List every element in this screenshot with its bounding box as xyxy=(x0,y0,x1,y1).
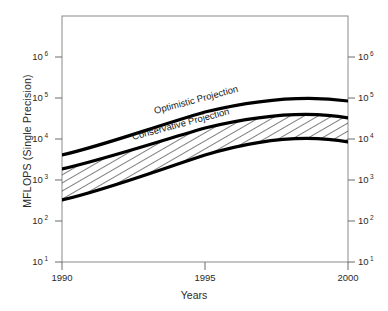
x-tick-label-2000: 2000 xyxy=(328,272,368,283)
y-tick-label-right-1e1: 101 xyxy=(358,255,388,267)
y-tick-label-right-1e5: 105 xyxy=(358,91,388,103)
y-tick-label-left-1e3: 103 xyxy=(18,173,48,185)
y-tick-label-left-1e2: 102 xyxy=(18,214,48,226)
plot-area: Optimistic Projection Conservative Proje… xyxy=(0,0,388,311)
y-tick-label-right-1e6: 106 xyxy=(358,50,388,62)
y-axis-right-ticks xyxy=(348,57,355,262)
y-tick-label-left-1e4: 104 xyxy=(18,132,48,144)
y-axis-left-ticks xyxy=(55,57,62,262)
x-axis-ticks xyxy=(62,262,348,270)
chart-figure: MFLOPS (Single Precision) xyxy=(0,0,388,311)
y-tick-label-left-1e6: 106 xyxy=(18,50,48,62)
y-tick-label-left-1e1: 101 xyxy=(18,255,48,267)
y-tick-label-left-1e5: 105 xyxy=(18,91,48,103)
x-tick-label-1990: 1990 xyxy=(42,272,82,283)
y-tick-label-right-1e2: 102 xyxy=(358,214,388,226)
y-tick-label-right-1e3: 103 xyxy=(358,173,388,185)
x-axis-title: Years xyxy=(0,289,388,301)
y-tick-label-right-1e4: 104 xyxy=(358,132,388,144)
x-tick-label-1995: 1995 xyxy=(185,272,225,283)
